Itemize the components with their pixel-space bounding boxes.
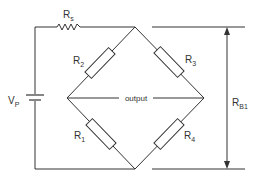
- r2-label: R2: [73, 55, 84, 68]
- rs-zigzag-resistor-icon: [57, 24, 80, 30]
- arrow-up-icon: [224, 27, 230, 35]
- battery-icon: [26, 95, 44, 100]
- vp-label: VP: [8, 95, 20, 108]
- arrow-down-icon: [224, 161, 230, 169]
- rs-label: Rs: [63, 9, 74, 22]
- output-label: output: [125, 94, 148, 103]
- r1-label: R1: [74, 130, 85, 143]
- bridge-circuit-diagram: VP Rs R2 R3 R1 R4 output RB1: [0, 0, 256, 180]
- r3-label: R3: [185, 54, 196, 67]
- r2-resistor-icon: [85, 48, 115, 79]
- r3-resistor-icon: [154, 47, 184, 78]
- r1-resistor-icon: [86, 119, 116, 150]
- r4-label: R4: [184, 130, 195, 143]
- r4-resistor-icon: [154, 119, 184, 150]
- rb1-label: RB1: [232, 97, 248, 110]
